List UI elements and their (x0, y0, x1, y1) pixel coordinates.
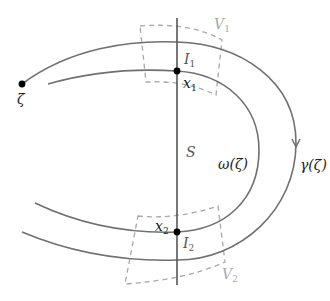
omega-label: ω(ζ) (218, 157, 248, 171)
x1-sub: 1 (191, 83, 197, 93)
i2-label: I2 (183, 236, 194, 253)
v2-base: V (222, 266, 232, 282)
x1-label: x1 (183, 76, 197, 93)
v1-sub: 1 (224, 24, 230, 34)
zeta-point (19, 81, 26, 88)
x2-point (174, 229, 181, 236)
x2-label: x2 (155, 219, 169, 236)
x2-sub: 2 (163, 226, 169, 236)
i1-label: I1 (184, 52, 195, 69)
zeta-label-text: ζ (17, 91, 25, 107)
v1-region (140, 25, 222, 95)
x2-base: x (155, 218, 163, 234)
v1-label: V1 (214, 17, 230, 34)
s-label: S (186, 145, 196, 159)
i2-sub: 2 (189, 243, 195, 253)
x1-base: x (183, 75, 191, 91)
s-label-text: S (186, 144, 196, 160)
gamma-label-text: γ(ζ) (300, 157, 327, 173)
omega-label-text: ω(ζ) (218, 156, 248, 172)
v2-label: V2 (222, 267, 238, 284)
i1-sub: 1 (190, 59, 196, 69)
v1-base: V (214, 16, 224, 32)
x1-point (174, 68, 181, 75)
omega-curve (35, 70, 259, 232)
diagram: ζ I1 x1 V1 S ω(ζ) γ(ζ) x2 I2 V2 (0, 0, 330, 301)
diagram-canvas (0, 0, 330, 301)
gamma-label: γ(ζ) (300, 158, 327, 172)
v2-region (125, 206, 225, 284)
v2-sub: 2 (232, 274, 238, 284)
zeta-label: ζ (17, 92, 25, 106)
